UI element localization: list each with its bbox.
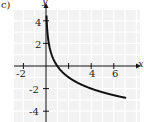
- panel-label: c): [1, 0, 11, 10]
- y-axis-label: y: [42, 0, 48, 6]
- y-tick-4: 4: [35, 18, 41, 28]
- x-tick-4: 4: [89, 69, 95, 79]
- x-axis-label: x: [138, 59, 144, 69]
- x-tick-6: 6: [112, 69, 118, 79]
- y-tick--4: -4: [29, 107, 39, 117]
- y-tick--2: -2: [29, 85, 39, 95]
- chart-plot: [0, 0, 144, 122]
- y-tick-2: 2: [35, 40, 41, 50]
- x-tick--2: -2: [16, 69, 26, 79]
